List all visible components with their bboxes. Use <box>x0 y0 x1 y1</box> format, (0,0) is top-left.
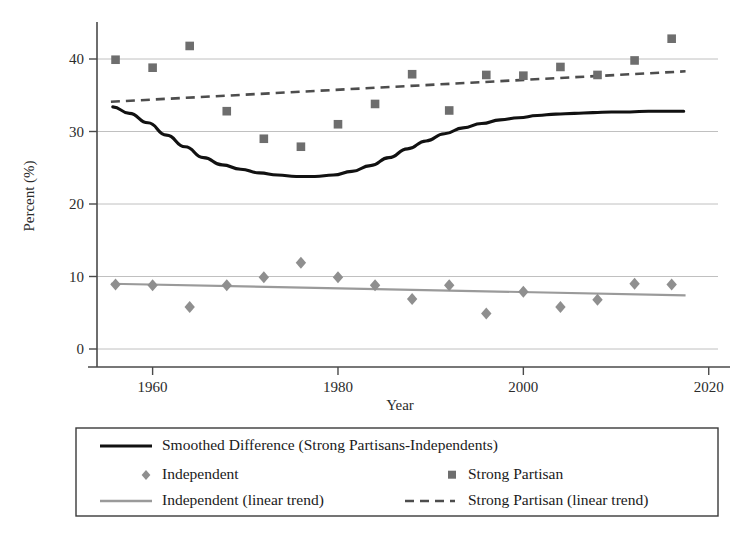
marker-strong-partisan <box>630 56 639 65</box>
legend-symbol-strong-partisan <box>448 471 456 479</box>
x-tick-label-1960: 1960 <box>138 379 168 395</box>
marker-strong-partisan <box>519 71 528 80</box>
legend-label-independent-trend: Independent (linear trend) <box>162 491 324 509</box>
legend-label-strong-partisan-trend: Strong Partisan (linear trend) <box>468 491 648 509</box>
marker-strong-partisan <box>260 134 269 143</box>
marker-strong-partisan <box>222 107 231 116</box>
marker-strong-partisan <box>148 63 157 72</box>
legend-label-smoothed-difference: Smoothed Difference (Strong Partisans-In… <box>162 436 498 454</box>
y-tick-label-20: 20 <box>69 196 84 212</box>
marker-strong-partisan <box>445 106 454 115</box>
x-axis-title: Year <box>386 397 414 413</box>
y-tick-label-40: 40 <box>69 51 84 67</box>
chart-svg: 010203040 1960198020002020 Percent (%) Y… <box>0 0 745 542</box>
legend-label-independent: Independent <box>162 465 239 482</box>
y-axis-title: Percent (%) <box>21 160 38 231</box>
y-tick-label-10: 10 <box>69 269 84 285</box>
chart-legend: Smoothed Difference (Strong Partisans-In… <box>76 428 718 516</box>
chart-figure: 010203040 1960198020002020 Percent (%) Y… <box>0 0 745 542</box>
marker-strong-partisan <box>482 71 491 80</box>
y-tick-label-30: 30 <box>69 124 84 140</box>
marker-strong-partisan <box>667 34 676 43</box>
marker-strong-partisan <box>556 63 565 72</box>
legend-label-strong-partisan: Strong Partisan <box>468 465 563 482</box>
marker-strong-partisan <box>593 71 602 80</box>
marker-strong-partisan <box>334 120 343 129</box>
marker-strong-partisan <box>185 42 194 51</box>
marker-strong-partisan <box>371 100 380 109</box>
marker-strong-partisan <box>111 55 120 64</box>
x-tick-label-2000: 2000 <box>508 379 538 395</box>
y-tick-label-0: 0 <box>77 341 85 357</box>
marker-strong-partisan <box>297 142 306 151</box>
x-tick-label-2020: 2020 <box>694 379 724 395</box>
x-tick-label-1980: 1980 <box>323 379 353 395</box>
marker-strong-partisan <box>408 70 417 79</box>
